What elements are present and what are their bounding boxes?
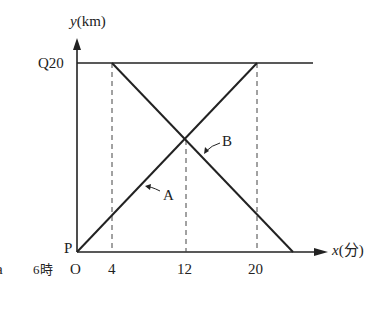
line-a-label: A <box>163 188 174 203</box>
y-unit: (km) <box>77 13 106 29</box>
y-var: y <box>70 13 77 29</box>
origin-label: O <box>70 262 81 277</box>
line-b-label: B <box>222 134 232 149</box>
x-unit: (分) <box>339 242 364 258</box>
x-tick-20: 20 <box>248 262 263 277</box>
x-tick-4: 4 <box>108 262 116 277</box>
leader-a-arrow-icon <box>145 184 151 190</box>
y-tick-20: 20 <box>49 55 64 71</box>
line-a <box>77 63 257 252</box>
q-label: Q20 <box>38 56 64 71</box>
q-point: Q <box>38 55 49 71</box>
left-fragment: a <box>0 262 3 277</box>
line-b <box>112 63 293 252</box>
x-tick-12: 12 <box>177 262 192 277</box>
start-time-label: 6時 <box>33 263 53 276</box>
leader-b-arrow-icon <box>204 147 209 154</box>
y-axis-label: y(km) <box>70 14 106 29</box>
x-var: x <box>332 242 339 258</box>
p-label: P <box>64 241 72 256</box>
x-axis-label: x(分) <box>332 243 364 258</box>
graph-canvas <box>0 0 392 320</box>
x-axis-arrow-icon <box>314 248 328 256</box>
y-axis-arrow-icon <box>73 38 81 50</box>
